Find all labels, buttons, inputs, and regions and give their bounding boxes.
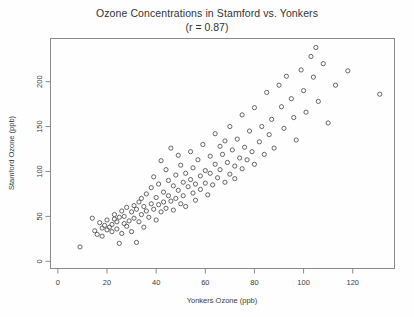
x-tick-label: 100 bbox=[297, 278, 310, 287]
data-point bbox=[154, 195, 158, 199]
y-tick-label: 100 bbox=[35, 165, 44, 178]
data-point bbox=[171, 208, 175, 212]
data-point bbox=[321, 62, 325, 66]
data-point bbox=[213, 132, 217, 136]
data-point bbox=[252, 162, 256, 166]
data-point bbox=[346, 69, 350, 73]
data-point bbox=[144, 192, 148, 196]
data-point bbox=[110, 222, 114, 226]
data-point bbox=[176, 153, 180, 157]
data-point bbox=[176, 188, 180, 192]
data-point bbox=[90, 216, 94, 220]
data-point bbox=[95, 232, 99, 236]
data-point bbox=[196, 158, 200, 162]
y-tick-label: 200 bbox=[35, 75, 44, 88]
data-point bbox=[161, 190, 165, 194]
data-point bbox=[102, 223, 106, 227]
data-point bbox=[120, 231, 124, 235]
x-tick-label: 40 bbox=[152, 278, 160, 287]
data-point bbox=[235, 137, 239, 141]
data-point bbox=[179, 163, 183, 167]
x-axis-label: Yonkers Ozone (ppb) bbox=[187, 296, 258, 305]
data-point bbox=[289, 97, 293, 101]
x-tick-label: 0 bbox=[56, 278, 60, 287]
data-point bbox=[171, 184, 175, 188]
chart-figure: Ozone Concentrations in Stamford vs. Yon… bbox=[0, 0, 414, 317]
data-point bbox=[152, 207, 156, 211]
x-tick-label: 80 bbox=[250, 278, 258, 287]
data-point bbox=[252, 106, 256, 110]
data-point bbox=[230, 148, 234, 152]
data-point bbox=[139, 212, 143, 216]
data-point bbox=[225, 160, 229, 164]
data-point bbox=[112, 217, 116, 221]
data-point bbox=[115, 220, 119, 224]
data-point bbox=[78, 245, 82, 249]
data-point bbox=[238, 156, 242, 160]
data-point bbox=[279, 105, 283, 109]
x-tick-label: 20 bbox=[103, 278, 111, 287]
data-point bbox=[262, 152, 266, 156]
data-points-layer bbox=[78, 45, 382, 249]
y-axis-label: Stamford Ozone (ppb) bbox=[7, 115, 16, 190]
data-point bbox=[284, 74, 288, 78]
data-point bbox=[127, 219, 131, 223]
y-tick-label: 150 bbox=[35, 120, 44, 133]
data-point bbox=[260, 124, 264, 128]
data-point bbox=[378, 92, 382, 96]
y-tick-label: 50 bbox=[35, 212, 44, 220]
data-point bbox=[112, 212, 116, 216]
data-point bbox=[188, 177, 192, 181]
data-point bbox=[115, 227, 119, 231]
data-point bbox=[198, 174, 202, 178]
data-point bbox=[333, 83, 337, 87]
scatter-plot: 020406080100120 050100150200 Yonkers Ozo… bbox=[0, 0, 414, 317]
data-point bbox=[107, 225, 111, 229]
data-point bbox=[137, 220, 141, 224]
data-point bbox=[186, 185, 190, 189]
data-point bbox=[142, 204, 146, 208]
data-point bbox=[203, 168, 207, 172]
data-point bbox=[166, 194, 170, 198]
data-point bbox=[169, 146, 173, 150]
data-point bbox=[120, 209, 124, 213]
data-point bbox=[110, 230, 114, 234]
data-point bbox=[228, 172, 232, 176]
y-tick-label: 0 bbox=[35, 259, 44, 263]
data-point bbox=[174, 196, 178, 200]
data-point bbox=[169, 199, 173, 203]
data-point bbox=[117, 215, 121, 219]
data-point bbox=[208, 154, 212, 158]
data-point bbox=[122, 221, 126, 225]
data-point bbox=[100, 226, 104, 230]
data-point bbox=[132, 216, 136, 220]
data-point bbox=[125, 205, 129, 209]
data-point bbox=[215, 176, 219, 180]
data-point bbox=[326, 121, 330, 125]
data-point bbox=[191, 166, 195, 170]
data-point bbox=[267, 133, 271, 137]
data-point bbox=[201, 142, 205, 146]
data-point bbox=[243, 145, 247, 149]
x-tick-label: 120 bbox=[346, 278, 359, 287]
data-point bbox=[223, 180, 227, 184]
data-point bbox=[98, 221, 102, 225]
data-point bbox=[125, 224, 129, 228]
data-point bbox=[292, 115, 296, 119]
data-point bbox=[282, 126, 286, 130]
data-point bbox=[208, 171, 212, 175]
data-point bbox=[233, 164, 237, 168]
data-point bbox=[206, 193, 210, 197]
data-point bbox=[164, 206, 168, 210]
data-point bbox=[184, 204, 188, 208]
data-point bbox=[161, 200, 165, 204]
data-point bbox=[157, 203, 161, 207]
data-point bbox=[100, 234, 104, 238]
data-point bbox=[157, 182, 161, 186]
data-point bbox=[277, 83, 281, 87]
data-point bbox=[129, 210, 133, 214]
data-point bbox=[257, 140, 261, 144]
data-point bbox=[122, 214, 126, 218]
data-point bbox=[164, 168, 168, 172]
data-point bbox=[314, 45, 318, 49]
